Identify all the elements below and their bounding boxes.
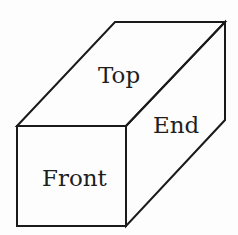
top-label: Top xyxy=(98,62,140,88)
box-diagram: Top End Front xyxy=(0,0,238,235)
end-label: End xyxy=(153,112,200,138)
front-label: Front xyxy=(42,165,108,191)
